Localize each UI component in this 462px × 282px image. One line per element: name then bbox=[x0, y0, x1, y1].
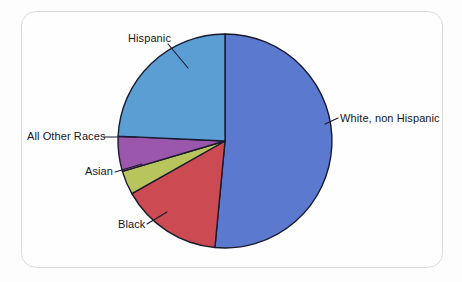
slice-label-all-other-races: All Other Races bbox=[27, 131, 106, 142]
pie-slices-group bbox=[118, 34, 332, 248]
pie-slice-hispanic[interactable] bbox=[118, 34, 225, 141]
slice-label-black: Black bbox=[118, 219, 145, 230]
pie-slice-white-non-hispanic[interactable] bbox=[215, 34, 332, 248]
slice-label-white-non-hispanic: White, non Hispanic bbox=[340, 113, 440, 124]
slice-label-hispanic: Hispanic bbox=[128, 33, 171, 44]
slice-label-asian: Asian bbox=[85, 166, 113, 177]
chart-stage: Hispanic White, non Hispanic All Other R… bbox=[0, 0, 462, 282]
